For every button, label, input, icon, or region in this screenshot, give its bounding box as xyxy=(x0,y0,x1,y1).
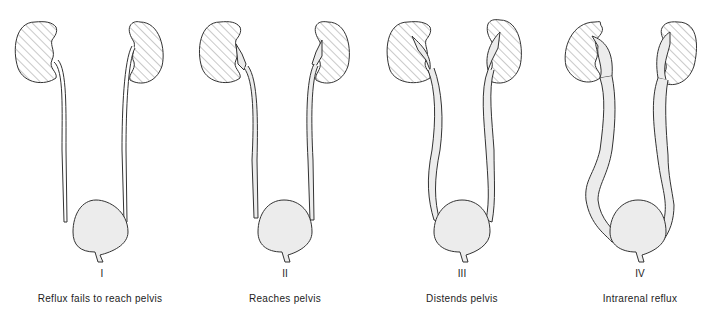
kidney-left-icon xyxy=(199,22,240,83)
grade-label-1: I xyxy=(82,268,122,279)
panel-4-illustration xyxy=(565,22,696,262)
ureter-right xyxy=(483,70,494,222)
bladder xyxy=(258,200,312,262)
caption-3: Distends pelvis xyxy=(372,293,552,304)
caption-2: Reaches pelvis xyxy=(195,293,375,304)
kidney-right-icon xyxy=(129,22,163,83)
bladder xyxy=(610,200,666,262)
bladder xyxy=(434,200,490,262)
ureter-right xyxy=(307,64,318,220)
grade-label-2: II xyxy=(265,268,305,279)
grade-label-3: III xyxy=(442,268,482,279)
ureter-left xyxy=(54,60,67,222)
kidney-left-icon xyxy=(15,22,56,83)
grade-label-4: IV xyxy=(620,268,660,279)
kidney-left-icon xyxy=(565,22,602,82)
panel-1-illustration xyxy=(15,22,163,262)
panel-2-illustration xyxy=(199,22,349,262)
caption-4: Intrarenal reflux xyxy=(550,293,709,304)
ureter-left xyxy=(428,68,442,222)
bladder xyxy=(73,200,128,262)
ureter-left xyxy=(244,66,258,218)
caption-1: Reflux fails to reach pelvis xyxy=(10,293,190,304)
renal-pelvis-left xyxy=(236,44,246,70)
panel-3-illustration xyxy=(387,20,521,262)
